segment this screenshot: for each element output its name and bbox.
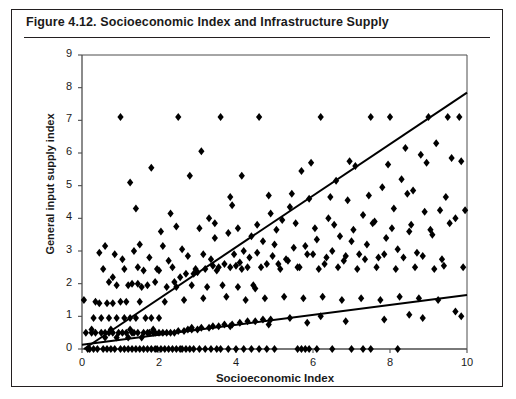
y-axis-title: General input supply index xyxy=(44,99,56,269)
x-tick-2: 2 xyxy=(149,356,169,368)
y-tick-5: 5 xyxy=(56,178,72,190)
chart-plot-area: General input supply index Socioeconomic… xyxy=(12,10,504,388)
figure-frame: Figure 4.12. Socioeconomic Index and Inf… xyxy=(11,9,503,387)
y-tick-2: 2 xyxy=(56,276,72,288)
x-tick-6: 6 xyxy=(303,356,323,368)
x-tick-0: 0 xyxy=(72,356,92,368)
x-axis-title: Socioeconomic Index xyxy=(82,372,468,384)
y-tick-6: 6 xyxy=(56,145,72,157)
y-tick-4: 4 xyxy=(56,210,72,222)
y-tick-8: 8 xyxy=(56,80,72,92)
y-tick-9: 9 xyxy=(56,47,72,59)
y-tick-1: 1 xyxy=(56,308,72,320)
x-tick-8: 8 xyxy=(380,356,400,368)
y-tick-3: 3 xyxy=(56,243,72,255)
y-tick-7: 7 xyxy=(56,112,72,124)
scatter-plot-svg xyxy=(12,10,504,388)
y-tick-0: 0 xyxy=(56,341,72,353)
x-tick-10: 10 xyxy=(457,356,477,368)
x-tick-4: 4 xyxy=(226,356,246,368)
